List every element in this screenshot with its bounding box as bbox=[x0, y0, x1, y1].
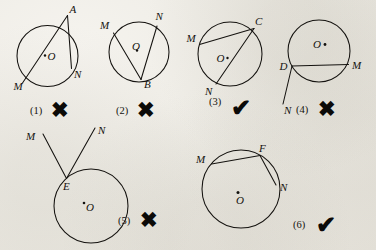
fig3-label-c: C bbox=[255, 15, 263, 27]
fig3-label-o: O bbox=[217, 52, 225, 64]
fig4-chord-d-to-m bbox=[292, 65, 349, 67]
fig4-number: (4) bbox=[296, 104, 309, 116]
fig2-circle bbox=[109, 22, 169, 82]
fig3-number: (3) bbox=[209, 96, 222, 108]
fig5-cross-mark: ✖ bbox=[140, 208, 158, 231]
fig1-cross-mark: ✖ bbox=[51, 98, 69, 121]
fig5-label-e: E bbox=[62, 180, 70, 192]
fig1-number: (1) bbox=[30, 105, 43, 117]
fig1-center-dot bbox=[44, 54, 46, 56]
fig5-number: (5) bbox=[118, 215, 131, 227]
fig5-label-n: N bbox=[97, 124, 106, 136]
fig2-label-b: B bbox=[144, 78, 151, 90]
fig2-label-m: M bbox=[99, 19, 110, 31]
fig1-label-n: N bbox=[73, 68, 82, 80]
fig6-number: (6) bbox=[293, 219, 306, 231]
geometry-figure-sheet: A M N O (1) ✖ M N B O (2) ✖ M C N O (3) … bbox=[0, 0, 376, 250]
fig2-number: (2) bbox=[116, 105, 129, 117]
fig6-circle bbox=[202, 150, 280, 228]
fig1-label-a: A bbox=[69, 3, 77, 15]
fig6-label-o: O bbox=[236, 194, 244, 206]
fig5-ray-e-to-m bbox=[43, 134, 67, 179]
fig4-label-o: O bbox=[313, 38, 321, 50]
fig4-label-n: N bbox=[283, 104, 292, 116]
fig1-line-a-to-n bbox=[68, 16, 72, 69]
fig1-label-m: M bbox=[13, 80, 24, 92]
fig4-center-dot bbox=[324, 43, 327, 46]
fig2-label-n: N bbox=[155, 10, 164, 22]
figure-5[interactable]: M N E O (5) ✖ bbox=[25, 124, 158, 243]
fig1-label-o: O bbox=[48, 50, 56, 62]
fig5-label-m: M bbox=[25, 130, 36, 142]
fig6-check-mark: ✔ bbox=[316, 211, 336, 238]
fig4-circle bbox=[288, 20, 350, 82]
fig5-center-dot bbox=[83, 202, 86, 205]
fig3-center-dot bbox=[226, 57, 228, 59]
fig6-label-f: F bbox=[258, 142, 266, 154]
figure-1[interactable]: A M N O (1) ✖ bbox=[13, 3, 83, 122]
fig2-chord-b-to-n bbox=[141, 26, 157, 80]
fig2-label-o: O bbox=[132, 40, 140, 52]
figure-4[interactable]: D M N O (4) ✖ bbox=[279, 20, 363, 120]
figure-6[interactable]: M F N O (6) ✔ bbox=[195, 142, 336, 238]
fig3-check-mark: ✔ bbox=[231, 94, 251, 121]
fig4-label-m: M bbox=[351, 59, 362, 71]
fig6-chord-f-to-n bbox=[260, 156, 276, 186]
fig3-label-m: M bbox=[186, 32, 197, 44]
fig4-label-d: D bbox=[279, 60, 288, 72]
figure-3[interactable]: M C N O (3) ✔ bbox=[186, 15, 264, 122]
fig6-label-m: M bbox=[195, 153, 206, 165]
fig6-label-n: N bbox=[279, 181, 288, 193]
fig2-cross-mark: ✖ bbox=[137, 98, 155, 121]
figure-2[interactable]: M N B O (2) ✖ bbox=[99, 10, 169, 121]
fig4-cross-mark: ✖ bbox=[318, 97, 336, 120]
fig5-label-o: O bbox=[86, 201, 94, 213]
